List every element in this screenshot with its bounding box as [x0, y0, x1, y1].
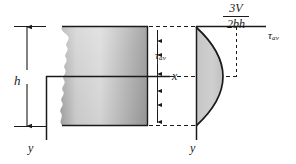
shear-stress-diagram: h y y x τav τav 3V 2bh [0, 0, 296, 164]
formula-numerator: 3V [215, 2, 257, 15]
tau-average-label-beam: τav [155, 46, 166, 62]
y-axis-label-right: y [190, 142, 195, 154]
height-label: h [14, 74, 21, 87]
tau-average-label-diagram: τav [268, 26, 279, 42]
formula-denominator: 2bh [215, 18, 257, 31]
neutral-axis-label: x [172, 70, 177, 82]
y-axis-label-left: y [28, 142, 33, 154]
max-shear-stress-formula: 3V 2bh [215, 2, 257, 32]
tau-subscript: av [159, 54, 166, 62]
tau-subscript: av [272, 34, 279, 42]
stress-distribution-group [196, 26, 266, 140]
